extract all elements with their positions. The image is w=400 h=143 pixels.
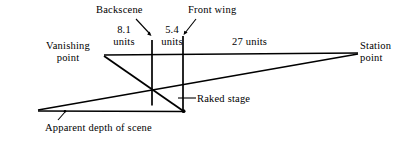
label-dimension-27-units: 27 units — [232, 36, 267, 48]
label-vanishing-point: Vanishing point — [37, 40, 99, 63]
raked-stage-line — [104, 56, 184, 112]
label-front-wing: Front wing — [188, 4, 236, 16]
horizon-line — [104, 53, 358, 55]
label-station-point: Station point — [360, 40, 400, 63]
label-apparent-depth-of-scene: Apparent depth of scene — [45, 122, 152, 134]
label-dimension-5-4-units: 5.4 units — [155, 24, 189, 47]
apparent-depth-anchor-dot — [64, 110, 67, 113]
perspective-stage-diagram: Backscene Front wing 8.1 units 5.4 units… — [0, 0, 400, 143]
label-raked-stage: Raked stage — [197, 93, 250, 105]
apparent-depth-leader-line — [58, 112, 65, 120]
ground-line — [38, 111, 184, 112]
label-backscene: Backscene — [96, 4, 143, 16]
stage-bottom-vertex-dot — [182, 109, 186, 113]
label-dimension-8-1-units: 8.1 units — [104, 24, 144, 47]
